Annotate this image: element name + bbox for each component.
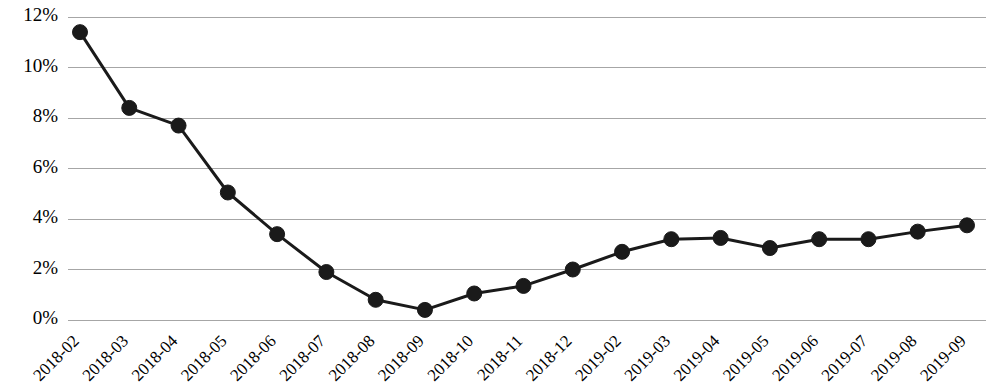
x-axis-tick-label: 2018-07 bbox=[276, 331, 330, 385]
line-chart-figure: 0%2%4%6%8%10%12% 2018-022018-032018-0420… bbox=[0, 0, 989, 390]
series-polyline bbox=[80, 32, 967, 310]
x-axis-tick-label: 2019-06 bbox=[768, 331, 822, 385]
gridlines-group bbox=[68, 17, 986, 320]
data-series-line bbox=[80, 32, 967, 310]
x-axis-tick-label: 2019-08 bbox=[867, 331, 921, 385]
x-axis-tick-label: 2019-09 bbox=[916, 331, 970, 385]
y-axis-tick-label: 2% bbox=[33, 257, 59, 278]
data-point-marker bbox=[713, 230, 728, 245]
y-axis-tick-label: 12% bbox=[23, 4, 58, 25]
data-point-marker bbox=[467, 286, 482, 301]
x-axis-tick-label: 2019-07 bbox=[818, 331, 872, 385]
y-axis-tick-label: 10% bbox=[23, 55, 58, 76]
data-point-marker bbox=[73, 25, 88, 40]
x-axis-tick-labels: 2018-022018-032018-042018-052018-062018-… bbox=[29, 331, 970, 385]
x-axis-tick-label: 2018-06 bbox=[226, 331, 280, 385]
y-axis-tick-label: 4% bbox=[33, 206, 59, 227]
data-point-marker bbox=[368, 292, 383, 307]
data-point-marker bbox=[960, 218, 975, 233]
data-point-marker bbox=[861, 232, 876, 247]
y-axis-tick-label: 0% bbox=[33, 307, 59, 328]
x-axis-tick-label: 2019-05 bbox=[719, 331, 773, 385]
data-point-marker bbox=[664, 232, 679, 247]
y-axis-tick-labels: 0%2%4%6%8%10%12% bbox=[23, 4, 58, 328]
x-axis-tick-label: 2019-03 bbox=[621, 331, 675, 385]
y-axis-tick-label: 6% bbox=[33, 156, 59, 177]
data-series-markers bbox=[73, 25, 975, 318]
data-point-marker bbox=[319, 265, 334, 280]
x-axis-tick-label: 2019-02 bbox=[571, 331, 625, 385]
data-point-marker bbox=[171, 118, 186, 133]
x-axis-tick-label: 2019-04 bbox=[670, 331, 724, 385]
x-axis-tick-label: 2018-02 bbox=[29, 331, 83, 385]
x-axis-tick-label: 2018-11 bbox=[473, 331, 526, 384]
data-point-marker bbox=[910, 224, 925, 239]
data-point-marker bbox=[565, 262, 580, 277]
x-axis-tick-label: 2018-09 bbox=[374, 331, 428, 385]
x-axis-tick-label: 2018-05 bbox=[177, 331, 231, 385]
data-point-marker bbox=[270, 227, 285, 242]
y-axis-tick-label: 8% bbox=[33, 105, 59, 126]
data-point-marker bbox=[762, 241, 777, 256]
data-point-marker bbox=[812, 232, 827, 247]
chart-canvas: 0%2%4%6%8%10%12% 2018-022018-032018-0420… bbox=[0, 0, 989, 390]
x-axis-tick-label: 2018-08 bbox=[325, 331, 379, 385]
data-point-marker bbox=[122, 100, 137, 115]
x-axis-tick-label: 2018-04 bbox=[128, 331, 182, 385]
x-axis-tick-label: 2018-12 bbox=[522, 331, 576, 385]
data-point-marker bbox=[417, 302, 432, 317]
data-point-marker bbox=[615, 244, 630, 259]
x-axis-tick-label: 2018-10 bbox=[424, 331, 478, 385]
x-axis-tick-label: 2018-03 bbox=[79, 331, 133, 385]
data-point-marker bbox=[220, 185, 235, 200]
data-point-marker bbox=[516, 278, 531, 293]
